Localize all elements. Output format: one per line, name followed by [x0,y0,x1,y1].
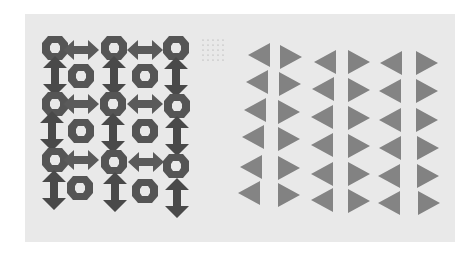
left-stamp-grid [40,36,190,218]
artwork [0,0,476,257]
right-triangle-columns [238,43,440,215]
dot-grid [202,39,223,60]
